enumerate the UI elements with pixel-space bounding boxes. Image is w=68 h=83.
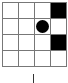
circle-piece-icon: [36, 20, 49, 33]
board-cell-r0-c1[interactable]: [19, 3, 35, 19]
board-cell-r3-c3[interactable]: [51, 51, 67, 67]
game-board: [2, 2, 67, 67]
board-cell-r0-c2[interactable]: [35, 3, 51, 19]
board-cell-r3-c0[interactable]: [3, 51, 19, 67]
board-cell-r0-c0[interactable]: [3, 3, 19, 19]
board-cell-r1-c3[interactable]: [51, 19, 67, 35]
board-cell-r2-c2[interactable]: [35, 35, 51, 51]
board-cell-r2-c0[interactable]: [3, 35, 19, 51]
board-cell-r2-c1[interactable]: [19, 35, 35, 51]
board-cell-r1-c1[interactable]: [19, 19, 35, 35]
board-cell-r1-c2[interactable]: [35, 19, 51, 35]
board-cell-r2-c3[interactable]: [51, 35, 67, 51]
board-cell-r3-c1[interactable]: [19, 51, 35, 67]
board-cell-r1-c0[interactable]: [3, 19, 19, 35]
board-cell-r0-c3[interactable]: [51, 3, 67, 19]
board-cell-r3-c2[interactable]: [35, 51, 51, 67]
position-marker: [33, 74, 34, 83]
